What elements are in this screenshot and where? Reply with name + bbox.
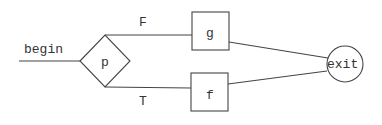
true-edge — [105, 87, 191, 88]
box-g-label: g — [206, 26, 214, 41]
flowchart-canvas: begin p F T g f exit — [0, 0, 382, 125]
decision-label: p — [101, 55, 109, 70]
exit-label: exit — [327, 57, 358, 72]
f-to-exit-edge — [228, 71, 327, 84]
false-edge-label: F — [139, 15, 147, 30]
true-edge-label: T — [139, 94, 147, 109]
box-f-label: f — [206, 88, 214, 103]
g-to-exit-edge — [229, 42, 328, 58]
begin-label: begin — [24, 42, 63, 57]
